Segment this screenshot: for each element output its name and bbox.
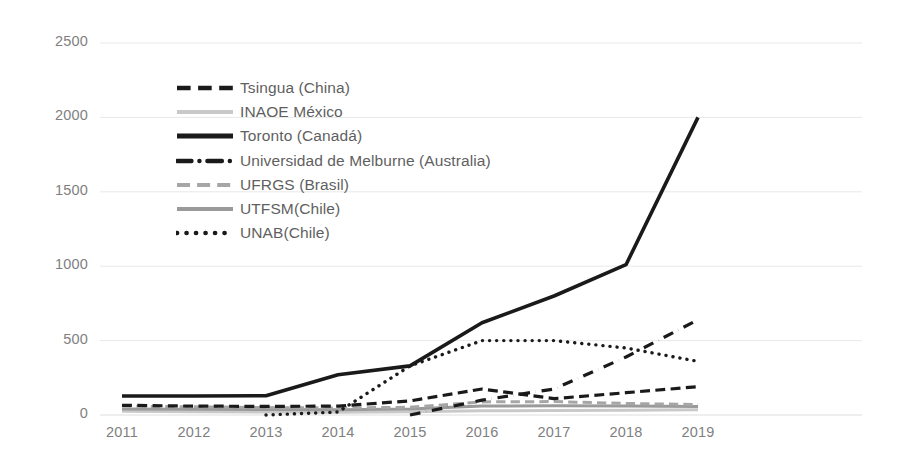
legend-item-label: UFRGS (Brasil) xyxy=(240,176,349,194)
y-tick-label: 500 xyxy=(0,331,88,347)
legend-item[interactable]: INAOE México xyxy=(176,100,491,124)
legend-item[interactable]: UFRGS (Brasil) xyxy=(176,173,491,197)
x-tick-label: 2018 xyxy=(590,424,662,440)
legend-swatch-icon xyxy=(176,202,234,216)
y-tick-label: 1000 xyxy=(0,256,88,272)
legend-item-label: Universidad de Melburne (Australia) xyxy=(240,152,491,170)
x-tick-label: 2019 xyxy=(662,424,734,440)
x-tick-label: 2013 xyxy=(230,424,302,440)
x-tick-label: 2012 xyxy=(158,424,230,440)
x-tick-label: 2014 xyxy=(302,424,374,440)
legend-item[interactable]: Toronto (Canadá) xyxy=(176,124,491,148)
legend-item-label: UNAB(Chile) xyxy=(240,224,330,242)
legend-item-label: Toronto (Canadá) xyxy=(240,127,362,145)
legend-swatch-icon xyxy=(176,154,234,168)
legend-swatch-icon xyxy=(176,129,234,143)
y-tick-label: 2000 xyxy=(0,107,88,123)
y-tick-label: 0 xyxy=(0,405,88,421)
x-tick-label: 2017 xyxy=(518,424,590,440)
legend-swatch-icon xyxy=(176,105,234,119)
line-chart: 25002000150010005000 2011201220132014201… xyxy=(0,0,900,466)
chart-legend: Tsingua (China)INAOE MéxicoToronto (Cana… xyxy=(176,76,491,245)
legend-item-label: UTFSM(Chile) xyxy=(240,200,340,218)
legend-item[interactable]: Universidad de Melburne (Australia) xyxy=(176,149,491,173)
y-tick-label: 2500 xyxy=(0,33,88,49)
legend-item-label: Tsingua (China) xyxy=(240,79,350,97)
legend-item[interactable]: UTFSM(Chile) xyxy=(176,197,491,221)
x-tick-label: 2015 xyxy=(374,424,446,440)
legend-item[interactable]: Tsingua (China) xyxy=(176,76,491,100)
x-tick-label: 2016 xyxy=(446,424,518,440)
legend-swatch-icon xyxy=(176,226,234,240)
x-tick-label: 2011 xyxy=(86,424,158,440)
legend-swatch-icon xyxy=(176,178,234,192)
y-tick-label: 1500 xyxy=(0,182,88,198)
legend-item[interactable]: UNAB(Chile) xyxy=(176,221,491,245)
legend-item-label: INAOE México xyxy=(240,103,343,121)
legend-swatch-icon xyxy=(176,81,234,95)
